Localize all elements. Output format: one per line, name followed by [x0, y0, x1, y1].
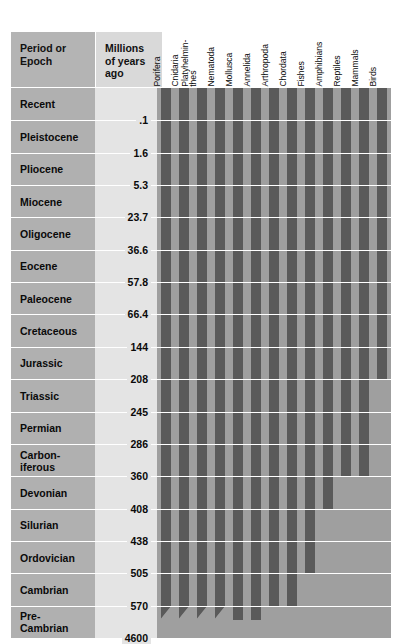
mya-value: 66.4 — [125, 308, 151, 320]
mya-value: 36.6 — [125, 244, 151, 256]
period-cell: Triassic — [11, 379, 95, 411]
mya-value: 5.3 — [130, 179, 151, 191]
grid-line — [157, 606, 391, 607]
grid-line — [157, 541, 391, 542]
mya-value: 23.7 — [125, 211, 151, 223]
mya-value: 57.8 — [125, 276, 151, 288]
range-bar — [233, 88, 244, 620]
grid-line — [157, 314, 391, 315]
period-cell: Cambrian — [11, 573, 95, 605]
header-period-epoch: Period or Epoch — [11, 32, 95, 87]
period-cell: Carbon-iferous — [11, 444, 95, 476]
period-cell: Silurian — [11, 509, 95, 541]
period-cell: Pleistocene — [11, 120, 95, 152]
mya-value: 208 — [127, 373, 151, 385]
taxon-header-row: PoriferaCnidariaPlatyhelmin-thesNematoda… — [157, 10, 391, 87]
period-cell: Ordovician — [11, 541, 95, 573]
range-bar — [305, 88, 316, 573]
mya-value: 505 — [127, 567, 151, 579]
period-cell: Permian — [11, 412, 95, 444]
mya-value: 408 — [127, 503, 151, 515]
taxon-label-porifera: Porifera — [153, 57, 162, 87]
period-cell: Paleocene — [11, 282, 95, 314]
grid-line — [157, 379, 391, 380]
period-cell: Oligocene — [11, 217, 95, 249]
grid-line — [157, 282, 391, 283]
mya-value: 286 — [127, 438, 151, 450]
taxon-label-fishes: Fishes — [297, 62, 306, 87]
mya-value: 570 — [127, 600, 151, 612]
grid-line — [157, 347, 391, 348]
period-cell: Eocene — [11, 250, 95, 282]
grid-line — [157, 444, 391, 445]
taxon-label-cnidaria: Cnidaria — [171, 55, 180, 87]
taxon-label-mollusca: Mollusca — [225, 53, 234, 87]
mya-value: 1.6 — [130, 147, 151, 159]
taxon-label-annelida: Annelida — [243, 54, 252, 87]
mya-value: 144 — [127, 341, 151, 353]
grid-line — [157, 509, 391, 510]
range-bar — [251, 88, 262, 620]
grid-line — [157, 153, 391, 154]
grid-line — [157, 412, 391, 413]
mya-column: .11.65.323.736.657.866.41442082452863604… — [95, 88, 157, 638]
mya-value: 438 — [127, 535, 151, 547]
taxon-label-arthropoda: Arthropoda — [261, 44, 270, 87]
period-cell: Pliocene — [11, 153, 95, 185]
grid-line — [157, 250, 391, 251]
taxon-label-nematoda: Nematoda — [207, 47, 216, 87]
period-cell: Jurassic — [11, 347, 95, 379]
period-cell: Miocene — [11, 185, 95, 217]
mya-value: 360 — [127, 470, 151, 482]
grid-line — [157, 217, 391, 218]
grid-line — [157, 185, 391, 186]
mya-value: 4600 — [122, 632, 151, 644]
period-cell: Pre-Cambrian — [11, 606, 95, 638]
mya-value: 245 — [127, 406, 151, 418]
period-cell: Cretaceous — [11, 314, 95, 346]
grid-line — [157, 476, 391, 477]
grid-line — [157, 573, 391, 574]
period-cell: Devonian — [11, 476, 95, 508]
mya-value: .1 — [136, 114, 151, 126]
taxon-label-birds: Birds — [369, 67, 378, 87]
taxon-label-platyhelminthes: Platyhelmin-thes — [181, 13, 198, 87]
taxon-label-amphibians: Amphibians — [315, 42, 324, 87]
range-bar — [377, 88, 388, 379]
taxon-label-mammals: Mammals — [351, 50, 360, 87]
taxon-label-reptiles: Reptiles — [333, 56, 342, 87]
range-bar-plot — [157, 88, 391, 638]
grid-line — [157, 120, 391, 121]
taxon-label-chordata: Chordata — [279, 52, 288, 87]
period-cell: Recent — [11, 88, 95, 120]
range-bar — [323, 88, 334, 509]
